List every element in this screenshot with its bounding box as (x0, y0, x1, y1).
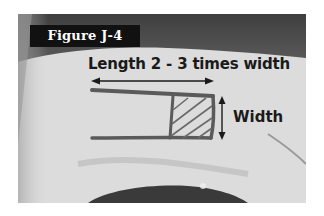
figure-frame: Figure J-4 Length 2 - 3 times width (0, 0, 324, 216)
width-annotation: Width (233, 108, 283, 126)
width-arrow-icon (219, 96, 226, 140)
hatched-square (171, 98, 212, 138)
length-arrow-icon (91, 78, 214, 85)
skin-photo: Figure J-4 Length 2 - 3 times width (18, 14, 306, 203)
flap-outline (92, 90, 214, 138)
